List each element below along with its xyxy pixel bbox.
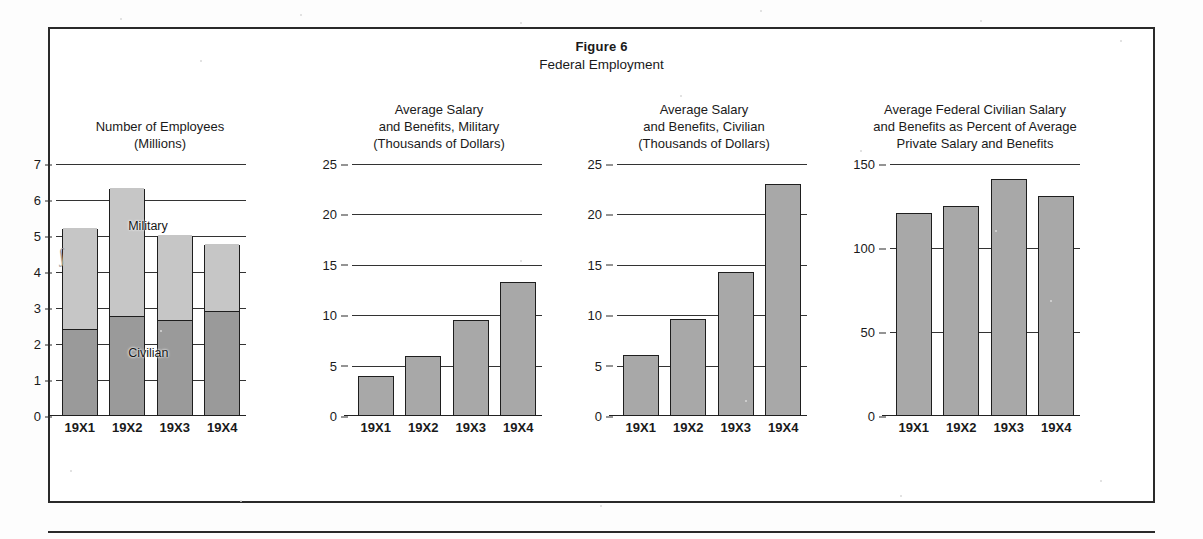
x-tick-label: 19X3: [721, 420, 751, 435]
y-tick-label: 10: [588, 308, 613, 323]
series-label-civilian: Civilian: [128, 346, 168, 360]
y-tick-value: 100: [853, 241, 875, 256]
x-tick-label: 19X3: [456, 420, 486, 435]
bar-19X4[interactable]: [1038, 164, 1074, 416]
bar-rect[interactable]: [358, 376, 394, 416]
scan-speckle: [70, 470, 72, 472]
bar-19X2[interactable]: [670, 164, 706, 416]
chart-title-4: Average Federal Civilian Salaryand Benef…: [830, 96, 1120, 152]
bar-segment-civilian[interactable]: [158, 320, 192, 415]
x-axis-labels-1: 19X119X219X319X4: [56, 420, 246, 440]
bar-19X4[interactable]: [765, 164, 801, 416]
scan-speckle: [300, 14, 302, 16]
plot-area-3: 051015202519X119X219X319X4: [565, 164, 843, 416]
bar-segment-military[interactable]: [63, 228, 97, 329]
chart-title-3: Average Salaryand Benefits, Civilian(Tho…: [565, 96, 843, 152]
y-tick-mark: [45, 272, 52, 273]
y-tick-label: 0: [330, 409, 348, 424]
scan-speckle: [600, 505, 602, 507]
y-tick-mark: [879, 248, 886, 249]
bar-19X3[interactable]: [157, 164, 193, 416]
bar-19X1[interactable]: [896, 164, 932, 416]
bar-rect[interactable]: [453, 320, 489, 416]
bar-rect[interactable]: [62, 229, 98, 416]
bar-rect[interactable]: [623, 355, 659, 416]
bar-segment-military[interactable]: [110, 188, 144, 316]
chart-panel-2: Average Salaryand Benefits, Military(Tho…: [300, 96, 578, 456]
bar-rect[interactable]: [670, 319, 706, 416]
bar-rect[interactable]: [896, 213, 932, 416]
bar-segment-military[interactable]: [205, 244, 239, 311]
x-tick-label: 19X4: [503, 420, 533, 435]
y-tick-mark: [341, 315, 348, 316]
bar-19X2[interactable]: [943, 164, 979, 416]
y-tick-mark: [606, 366, 613, 367]
bar-19X4[interactable]: [500, 164, 536, 416]
bar-19X4[interactable]: [204, 164, 240, 416]
y-tick-mark: [341, 265, 348, 266]
chart-title-line: Average Federal Civilian Salary: [884, 101, 1066, 118]
y-tick-mark: [45, 308, 52, 309]
scan-speckle: [980, 20, 982, 22]
y-tick-label: 20: [323, 207, 348, 222]
x-tick-label: 19X3: [160, 420, 190, 435]
x-tick-label: 19X2: [408, 420, 438, 435]
y-tick-mark: [606, 265, 613, 266]
y-axis-1: 01234567: [10, 164, 52, 416]
scan-speckle: [520, 22, 522, 24]
x-tick-label: 19X1: [626, 420, 656, 435]
bar-rect[interactable]: [157, 236, 193, 416]
bar-19X2[interactable]: [405, 164, 441, 416]
bar-rect[interactable]: [405, 356, 441, 416]
bar-19X2[interactable]: [109, 164, 145, 416]
bar-rect[interactable]: [943, 206, 979, 416]
bar-segment-civilian[interactable]: [205, 311, 239, 415]
bar-segment-civilian[interactable]: [110, 316, 144, 415]
y-tick-value: 3: [34, 301, 41, 316]
bar-19X1[interactable]: [623, 164, 659, 416]
bar-19X3[interactable]: [718, 164, 754, 416]
bar-19X1[interactable]: [358, 164, 394, 416]
bar-19X3[interactable]: [991, 164, 1027, 416]
scan-speckle: [430, 120, 432, 122]
y-tick-label: 1: [34, 373, 52, 388]
y-tick-label: 5: [330, 358, 348, 373]
chart-panel-3: Average Salaryand Benefits, Civilian(Tho…: [565, 96, 843, 456]
bar-rect[interactable]: [1038, 196, 1074, 416]
plot-area-1: 01234567MilitaryCivilian19X119X219X319X4: [10, 164, 310, 416]
y-tick-label: 0: [34, 409, 52, 424]
page-footer-rule: [48, 531, 1155, 533]
chart-title-line: Average Salary: [660, 101, 749, 118]
bar-19X3[interactable]: [453, 164, 489, 416]
y-tick-mark: [341, 164, 348, 165]
bar-rect[interactable]: [204, 245, 240, 416]
y-tick-mark: [45, 164, 52, 165]
y-tick-value: 2: [34, 337, 41, 352]
chart-title-line: and Benefits as Percent of Average: [873, 118, 1077, 135]
x-tick-label: 19X4: [1041, 420, 1071, 435]
bar-segment-military[interactable]: [158, 235, 192, 320]
x-tick-label: 19X2: [112, 420, 142, 435]
bar-19X1[interactable]: [62, 164, 98, 416]
y-tick-value: 0: [34, 409, 41, 424]
scan-speckle: [900, 495, 902, 497]
scan-speckle: [1100, 480, 1102, 482]
plot-area-2: 051015202519X119X219X319X4: [300, 164, 578, 416]
plot-body-4: [890, 164, 1080, 416]
chart-title-line: Private Salary and Benefits: [897, 135, 1054, 152]
bar-rect[interactable]: [500, 282, 536, 416]
y-tick-label: 5: [595, 358, 613, 373]
figure-page: Figure 6 Federal Employment Number of Em…: [0, 0, 1203, 539]
y-tick-label: 150: [853, 157, 886, 172]
bar-rect[interactable]: [765, 184, 801, 416]
y-axis-3: 0510152025: [565, 164, 613, 416]
y-tick-mark: [341, 214, 348, 215]
chart-title-1: Number of Employees(Millions): [10, 96, 310, 152]
x-axis-labels-2: 19X119X219X319X4: [352, 420, 542, 440]
bar-rect[interactable]: [991, 179, 1027, 416]
y-tick-value: 5: [34, 229, 41, 244]
bar-segment-civilian[interactable]: [63, 329, 97, 415]
y-tick-label: 7: [34, 157, 52, 172]
bar-rect[interactable]: [718, 272, 754, 416]
chart-title-line: Average Salary: [395, 101, 484, 118]
